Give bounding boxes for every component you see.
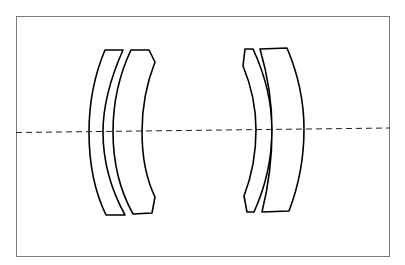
optical-axis [16,128,390,133]
lens-element-2 [113,50,155,214]
diagram-frame [17,17,390,257]
lens-diagram [0,0,405,265]
rear-lens-group [243,48,304,212]
front-lens-group [89,50,155,215]
